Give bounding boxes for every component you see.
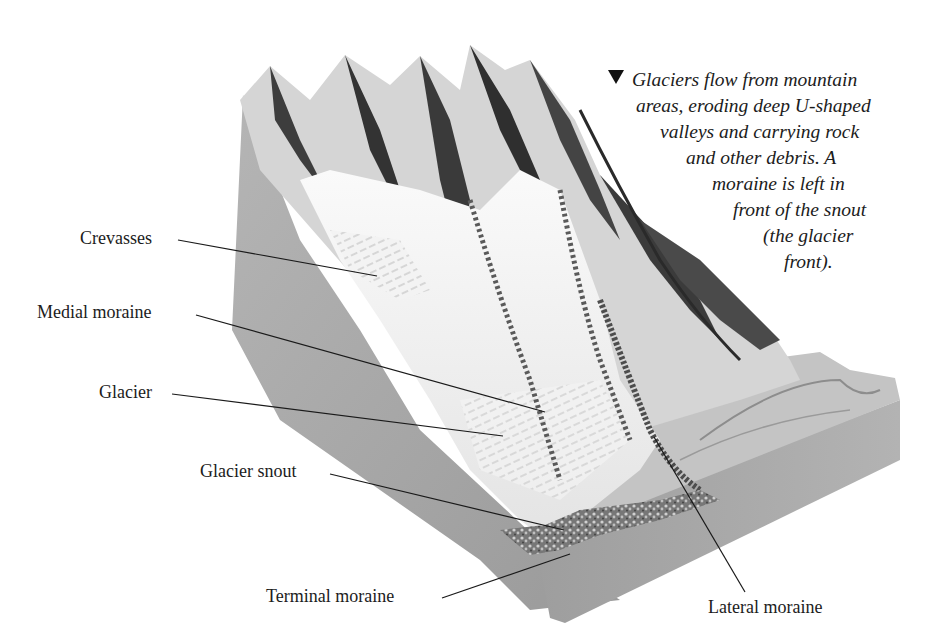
label-glacier-snout: Glacier snout — [200, 461, 296, 481]
triangle-down-icon — [608, 70, 624, 84]
caption-line-5: moraine is left in — [608, 171, 948, 197]
caption-line-2: areas, eroding deep U-shaped — [608, 93, 948, 119]
caption-line-8: front). — [608, 249, 948, 275]
figure-caption: Glaciers flow from mountain areas, erodi… — [608, 67, 948, 275]
label-medial-moraine: Medial moraine — [37, 302, 151, 322]
label-lateral-moraine: Lateral moraine — [708, 597, 822, 617]
label-terminal-moraine: Terminal moraine — [266, 586, 394, 606]
label-crevasses: Crevasses — [80, 228, 152, 248]
caption-line-3: valleys and carrying rock — [608, 119, 948, 145]
caption-line-1: Glaciers flow from mountain — [632, 69, 857, 90]
caption-line-7: (the glacier — [608, 223, 948, 249]
caption-line-6: front of the snout — [608, 197, 948, 223]
caption-line-4: and other debris. A — [608, 145, 948, 171]
label-glacier: Glacier — [99, 382, 152, 402]
